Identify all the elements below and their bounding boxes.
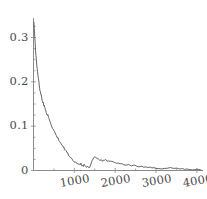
data-series-line: [34, 22, 201, 170]
x-axis-tick-label: 4000: [182, 173, 207, 189]
chart-figure: 00.10.20.3 1000200030004000: [0, 0, 207, 199]
chart-plot-area: [0, 0, 207, 199]
axes-group: [31, 18, 203, 173]
y-axis-tick-label: 0.3: [10, 32, 29, 44]
y-axis-tick-label: 0: [21, 165, 29, 177]
y-axis-tick-label: 0.1: [10, 120, 29, 132]
y-axis-tick-label: 0.2: [10, 76, 29, 88]
